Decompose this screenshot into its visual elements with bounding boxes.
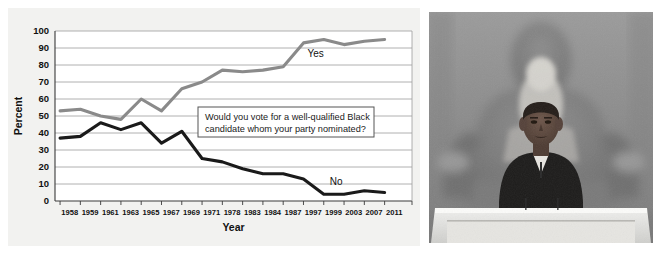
annotation-line: Would you vote for a well-qualified Blac…: [205, 112, 370, 122]
x-tick-label: 1983: [244, 208, 261, 217]
x-tick-label: 1965: [142, 208, 160, 217]
chart-panel: 0102030405060708090100195819591961196319…: [8, 8, 420, 246]
x-tick-label: 2003: [345, 208, 362, 217]
x-tick-label: 1961: [102, 208, 120, 217]
y-axis-title: Percent: [12, 96, 24, 135]
y-tick-label: 20: [38, 161, 49, 172]
line-chart: 0102030405060708090100195819591961196319…: [8, 8, 420, 246]
y-tick-label: 40: [38, 127, 49, 138]
series-label-no: No: [330, 176, 343, 187]
x-tick-label: 1978: [224, 208, 241, 217]
x-tick-label: 1997: [305, 208, 322, 217]
obama-at-lincoln-memorial-photo: [429, 12, 653, 243]
y-tick-label: 70: [38, 76, 49, 87]
x-tick-label: 1967: [163, 208, 180, 217]
y-tick-label: 80: [38, 59, 49, 70]
x-axis-title: Year: [222, 221, 244, 233]
x-tick-label: 1999: [325, 208, 342, 217]
figure-root: 0102030405060708090100195819591961196319…: [0, 0, 666, 254]
x-tick-label: 1963: [122, 208, 139, 217]
x-tick-label: 1984: [264, 208, 282, 217]
y-tick-label: 100: [33, 25, 49, 36]
x-tick-label: 1987: [284, 208, 301, 217]
annotation-line: candidate whom your party nominated?: [205, 124, 366, 134]
y-tick-label: 10: [38, 178, 49, 189]
x-tick-label: 1958: [61, 208, 78, 217]
y-tick-label: 0: [44, 195, 49, 206]
series-label-yes: Yes: [307, 48, 323, 59]
y-tick-label: 50: [38, 110, 49, 121]
y-tick-label: 90: [38, 42, 49, 53]
x-tick-label: 1969: [183, 208, 200, 217]
x-tick-label: 1971: [203, 208, 221, 217]
x-tick-label: 2007: [366, 208, 383, 217]
y-tick-label: 60: [38, 93, 49, 104]
photo-illustration: [429, 12, 653, 243]
x-tick-label: 1959: [82, 208, 99, 217]
y-tick-label: 30: [38, 144, 49, 155]
x-tick-label: 2011: [386, 208, 403, 217]
